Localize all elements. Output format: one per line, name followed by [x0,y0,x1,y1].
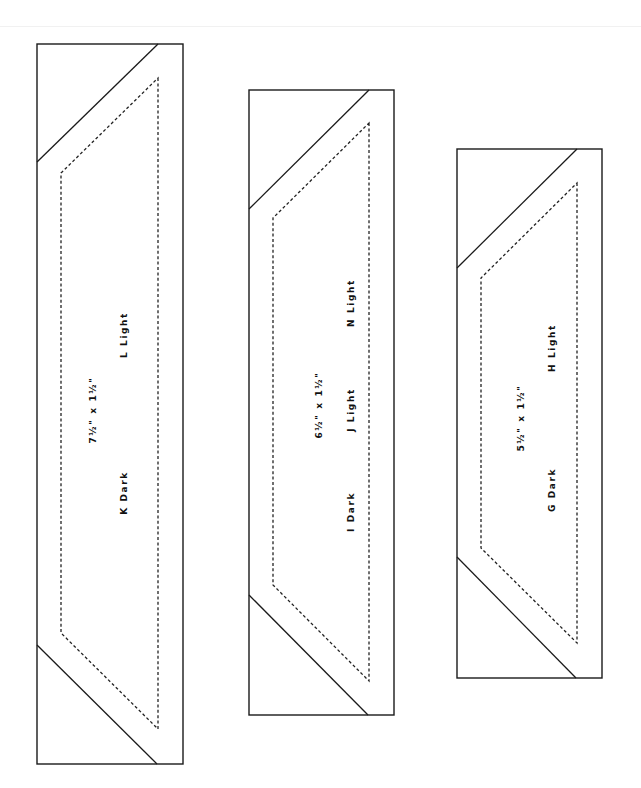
strip-1-template [37,44,183,764]
strip-1-outline [37,44,183,764]
strip-2-bottom-cut-line [249,595,368,715]
strip-1-size-label: 7½" x 1½" [88,376,98,443]
strip-1-bottom-cut-line [37,645,157,764]
strip-3-outline [457,149,602,678]
strip-3-seam-line [481,183,577,643]
strip-2-patch-i-dark: I Dark [346,492,356,532]
strip-3-patch-g-dark: G Dark [547,468,557,512]
strip-1-top-cut-line [37,44,158,162]
strip-3-top-cut-line [457,149,577,268]
strip-3-size-label: 5½" x 1½" [516,384,526,451]
strip-3-template [457,149,602,678]
strip-2-top-cut-line [249,90,369,209]
strip-1-patch-l-light: L Light [119,312,129,358]
strip-3-patch-h-light: H Light [547,324,557,372]
strip-3-bottom-cut-line [457,557,576,678]
strip-1-patch-k-dark: K Dark [119,471,129,515]
strip-2-patch-j-light: J Light [346,388,356,432]
strip-2-patch-n-light: N Light [346,279,356,327]
strip-1-seam-line [61,78,158,729]
strip-2-size-label: 6½" x 1½" [314,371,324,438]
